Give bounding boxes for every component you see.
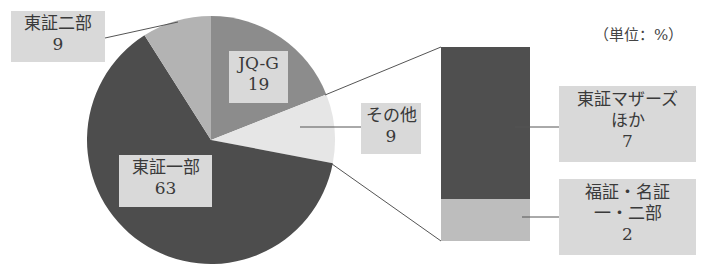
breakdown-bar bbox=[441, 47, 530, 241]
label-fukuoka: 福証・名証 一・二部 2 bbox=[559, 179, 696, 255]
label-fukuoka-name2: 一・二部 bbox=[563, 203, 692, 224]
label-mothers-name1: 東証マザーズ bbox=[563, 89, 692, 110]
label-jqg-value: 19 bbox=[233, 74, 284, 95]
label-tse2-value: 9 bbox=[15, 34, 101, 55]
pie bbox=[87, 16, 335, 264]
label-tse1-name: 東証一部 bbox=[123, 157, 208, 178]
connector-bottom bbox=[332, 164, 441, 241]
label-tse2: 東証二部 9 bbox=[11, 11, 105, 62]
label-other-name: その他 bbox=[365, 105, 417, 126]
label-other: その他 9 bbox=[361, 103, 421, 154]
bar-segment-mothers bbox=[441, 47, 530, 199]
label-jqg: JQ-G 19 bbox=[229, 51, 288, 103]
label-tse1-value: 63 bbox=[123, 178, 208, 199]
connector-top bbox=[325, 47, 441, 95]
label-mothers-value: 7 bbox=[563, 131, 692, 152]
label-tse2-name: 東証二部 bbox=[15, 13, 101, 34]
label-fukuoka-name1: 福証・名証 bbox=[563, 182, 692, 203]
label-jqg-name: JQ-G bbox=[233, 53, 284, 74]
bar-segment-fukuoka bbox=[441, 199, 530, 241]
label-tse1: 東証一部 63 bbox=[119, 155, 212, 207]
label-other-value: 9 bbox=[365, 126, 417, 147]
label-mothers: 東証マザーズ ほか 7 bbox=[559, 86, 696, 162]
label-mothers-name2: ほか bbox=[563, 110, 692, 131]
unit-note: （単位：%） bbox=[594, 23, 683, 44]
label-fukuoka-value: 2 bbox=[563, 224, 692, 245]
